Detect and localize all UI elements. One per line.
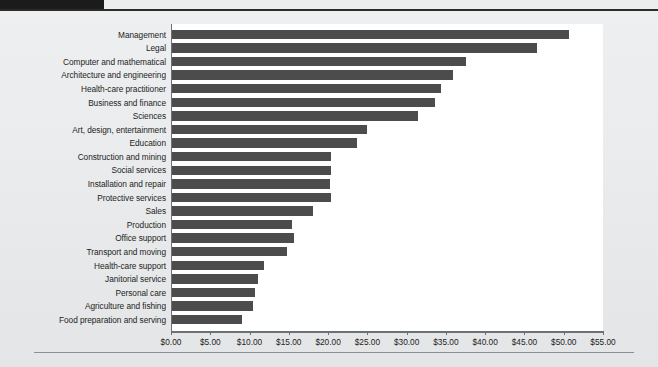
bar-track (171, 258, 604, 272)
bar-track (171, 191, 604, 205)
bar-row: Architecture and engineering (0, 68, 658, 82)
bar-row: Transport and moving (0, 245, 658, 259)
bar-row: Computer and mathematical (0, 55, 658, 69)
bar-row: Food preparation and serving (0, 313, 658, 327)
bar-row: Legal (0, 41, 658, 55)
category-label: Health-care practitioner (0, 84, 171, 94)
bar (172, 206, 313, 215)
bar-track (171, 163, 604, 177)
bar (172, 193, 331, 202)
bar (172, 274, 258, 283)
bar (172, 288, 255, 297)
x-axis-tick (564, 331, 565, 335)
bar-row: Construction and mining (0, 150, 658, 164)
bar-row: Personal care (0, 286, 658, 300)
bar (172, 315, 242, 324)
category-label: Computer and mathematical (0, 57, 171, 67)
category-label: Social services (0, 165, 171, 175)
bar-track (171, 82, 604, 96)
bar (172, 57, 466, 66)
category-label: Installation and repair (0, 179, 171, 189)
x-axis-tick (367, 331, 368, 335)
category-label: Education (0, 138, 171, 148)
bar-row: Business and finance (0, 95, 658, 109)
bar (172, 125, 367, 134)
bar-track (171, 299, 604, 313)
bottom-divider-rule (34, 352, 634, 353)
page-canvas: ManagementLegalComputer and mathematical… (0, 11, 658, 367)
bar (172, 70, 453, 79)
bar-track (171, 313, 604, 327)
category-label: Agriculture and fishing (0, 301, 171, 311)
bar-row: Health-care practitioner (0, 82, 658, 96)
bar-row: Social services (0, 163, 658, 177)
bar-track (171, 218, 604, 232)
x-axis-tick (289, 331, 290, 335)
bar (172, 84, 441, 93)
bar-track (171, 150, 604, 164)
bar-track (171, 272, 604, 286)
x-axis-tick (407, 331, 408, 335)
x-axis-tick (171, 331, 172, 335)
bar-track (171, 177, 604, 191)
bar-row: Agriculture and fishing (0, 299, 658, 313)
bar (172, 233, 294, 242)
bar-track (171, 231, 604, 245)
bar-track (171, 68, 604, 82)
bar (172, 43, 537, 52)
bar (172, 30, 569, 39)
bar-row: Janitorial service (0, 272, 658, 286)
bar-row: Health-care support (0, 258, 658, 272)
category-label: Health-care support (0, 261, 171, 271)
bar-row: Office support (0, 231, 658, 245)
category-label: Art, design, entertainment (0, 125, 171, 135)
bar-row: Art, design, entertainment (0, 123, 658, 137)
category-label: Transport and moving (0, 247, 171, 257)
category-label: Food preparation and serving (0, 315, 171, 325)
bar (172, 220, 292, 229)
bar-row: Management (0, 28, 658, 42)
category-label: Protective services (0, 193, 171, 203)
bar-track (171, 204, 604, 218)
category-label: Architecture and engineering (0, 70, 171, 80)
bar (172, 152, 331, 161)
bar-track (171, 41, 604, 55)
bar (172, 261, 264, 270)
bar (172, 166, 331, 175)
bar-track (171, 123, 604, 137)
x-axis-tick-label: $55.00 (580, 337, 626, 347)
bar-row: Production (0, 218, 658, 232)
x-axis-tick (250, 331, 251, 335)
category-label: Management (0, 30, 171, 40)
x-axis-tick (485, 331, 486, 335)
bar-track (171, 28, 604, 42)
bar (172, 138, 357, 147)
bar (172, 98, 435, 107)
bar-row: Sciences (0, 109, 658, 123)
bar-track (171, 286, 604, 300)
bar-track (171, 109, 604, 123)
category-label: Janitorial service (0, 274, 171, 284)
x-axis-tick (524, 331, 525, 335)
bar (172, 111, 418, 120)
bar-track (171, 95, 604, 109)
bar (172, 301, 253, 310)
category-label: Sales (0, 206, 171, 216)
bar (172, 247, 287, 256)
x-axis-tick (446, 331, 447, 335)
category-label: Legal (0, 43, 171, 53)
category-label: Office support (0, 233, 171, 243)
bar-row: Sales (0, 204, 658, 218)
bar-row: Protective services (0, 191, 658, 205)
bar-row: Installation and repair (0, 177, 658, 191)
bar-row: Education (0, 136, 658, 150)
category-label: Personal care (0, 288, 171, 298)
bar-track (171, 245, 604, 259)
category-label: Business and finance (0, 98, 171, 108)
bar-chart-figure: ManagementLegalComputer and mathematical… (0, 11, 658, 352)
category-label: Sciences (0, 111, 171, 121)
window-title-tab (0, 0, 104, 9)
x-axis-tick (603, 331, 604, 335)
category-label: Construction and mining (0, 152, 171, 162)
bar-track (171, 136, 604, 150)
